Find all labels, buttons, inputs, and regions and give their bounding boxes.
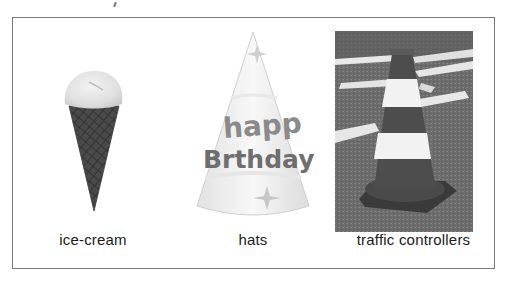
caption-ice-cream: ice-cream [33,231,153,248]
ice-cream-cone-icon [59,64,129,214]
caption-hats: hats [193,231,313,248]
figure-frame: ice-cream happ Brthday hats [12,17,495,269]
stray-mark [113,2,117,7]
hat-text-happy: happ [222,106,303,144]
traffic-cone-photo [335,31,473,232]
caption-traffic-controllers: traffic controllers [333,231,494,248]
party-hat-icon: happ Brthday [191,28,315,223]
item-ice-cream: ice-cream [13,18,173,268]
item-hats: happ Brthday hats [173,18,333,268]
hat-text-birthday: Brthday [203,145,314,174]
item-traffic-controllers: traffic controllers [333,18,494,268]
